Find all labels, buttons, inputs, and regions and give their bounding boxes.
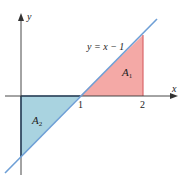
y-axis-arrow-icon [18,13,24,21]
area-diagram: y x 1 2 y = x − 1 A1 A2 [0,0,179,180]
region-a2-subscript: 2 [39,120,43,128]
region-a1-subscript: 1 [129,72,133,80]
equation-label: y = x − 1 [86,41,124,52]
x-axis-label: x [171,83,177,94]
x-tick-2: 2 [140,99,145,110]
y-axis-label: y [26,11,32,22]
x-tick-1: 1 [78,99,83,110]
